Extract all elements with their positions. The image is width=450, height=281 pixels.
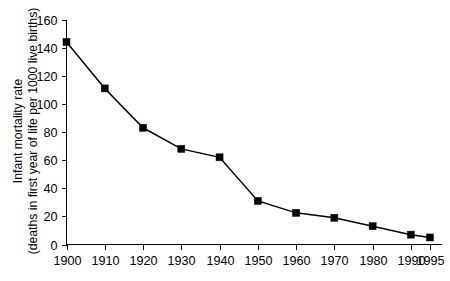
x-tick-label-1995: 1995 xyxy=(416,254,444,268)
y-axis-title-line2: (deaths in first year of life per 1000 l… xyxy=(26,8,40,255)
y-tick-label-20: 20 xyxy=(43,210,57,224)
data-point-1950 xyxy=(254,197,261,204)
x-tick-label-1900: 1900 xyxy=(53,254,81,268)
chart-container: 020406080100120140160 190019101920193019… xyxy=(0,0,450,281)
data-point-1910 xyxy=(101,85,108,92)
x-tick-label-1910: 1910 xyxy=(91,254,119,268)
y-axis-title-line1: Infant mortality rate xyxy=(11,79,25,184)
x-tick-label-1930: 1930 xyxy=(167,254,195,268)
data-point-1930 xyxy=(178,145,185,152)
y-tick-label-60: 60 xyxy=(43,154,57,168)
data-point-1970 xyxy=(331,214,338,221)
x-tick-label-1950: 1950 xyxy=(244,254,272,268)
y-tick-label-40: 40 xyxy=(43,182,57,196)
y-tick-label-0: 0 xyxy=(50,239,57,253)
y-tick-label-80: 80 xyxy=(43,126,57,140)
x-tick-label-1970: 1970 xyxy=(320,254,348,268)
data-point-1920 xyxy=(140,124,147,131)
data-point-1995 xyxy=(427,234,434,241)
x-tick-label-1920: 1920 xyxy=(129,254,157,268)
infant-mortality-line-chart: 020406080100120140160 190019101920193019… xyxy=(0,0,450,281)
data-point-1900 xyxy=(63,39,70,46)
data-point-1980 xyxy=(369,223,376,230)
data-point-1990 xyxy=(407,231,414,238)
x-tick-label-1960: 1960 xyxy=(282,254,310,268)
data-point-1940 xyxy=(216,154,223,161)
data-point-1960 xyxy=(293,209,300,216)
x-tick-label-1940: 1940 xyxy=(206,254,234,268)
x-axis-tick-labels: 1900191019201930194019501960197019801990… xyxy=(53,254,444,268)
x-tick-label-1980: 1980 xyxy=(359,254,387,268)
